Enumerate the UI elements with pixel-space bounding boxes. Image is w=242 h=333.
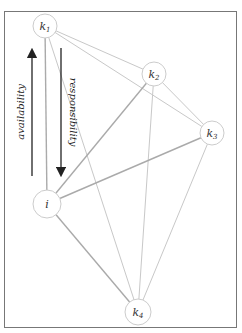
edges — [45, 26, 212, 312]
edge-k1-k4 — [45, 26, 138, 312]
node-k1: k1 — [33, 14, 57, 38]
node-k1-sub: 1 — [46, 26, 50, 34]
node-k2: k2 — [142, 62, 166, 86]
node-k3-sub: 3 — [213, 133, 218, 141]
node-k4-sub: 4 — [138, 312, 143, 320]
availability-label: availability — [15, 84, 26, 140]
edge-i-k4 — [47, 204, 138, 312]
edge-k2-k4 — [138, 74, 154, 312]
edge-k1-i — [45, 26, 47, 204]
affinity-propagation-diagram: availability responsibility k1 k2 k3 i k… — [0, 0, 242, 333]
node-i: i — [33, 190, 61, 218]
node-k3: k3 — [200, 121, 224, 145]
node-i-label: i — [45, 198, 49, 211]
node-k2-sub: 2 — [154, 74, 160, 82]
responsibility-label: responsibility — [68, 78, 79, 147]
edge-k2-i — [47, 74, 154, 204]
node-k4: k4 — [125, 299, 151, 325]
